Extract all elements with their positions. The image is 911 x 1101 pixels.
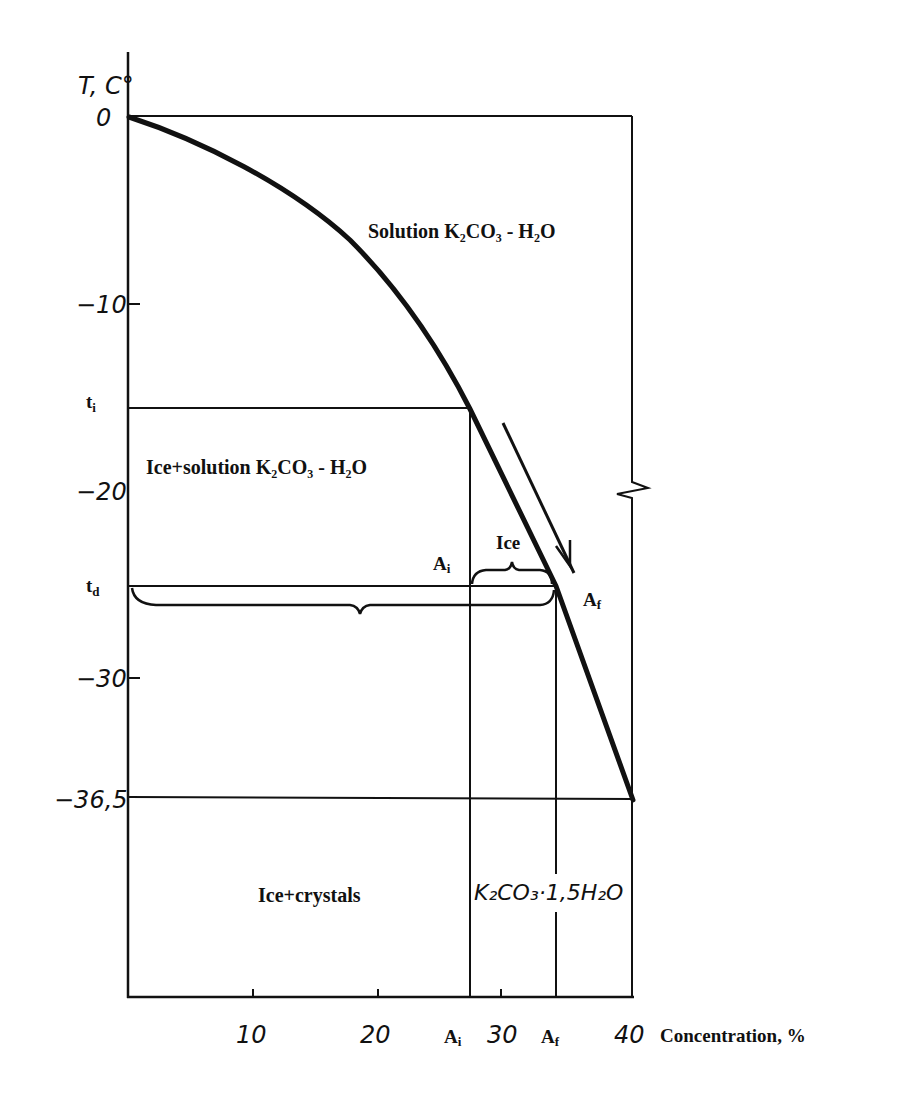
af-axis-label: Af — [541, 1026, 560, 1049]
brace-ice — [472, 562, 552, 584]
x-axis-label: Concentration, % — [660, 1025, 806, 1046]
ti-label: ti — [86, 391, 96, 415]
y-tick-label-m20: −20 — [76, 478, 127, 506]
y-tick-label-m30: −30 — [76, 665, 127, 693]
eutectic-line — [128, 797, 634, 799]
ai-axis-label: Ai — [444, 1026, 462, 1049]
region-ice-solution-label: Ice+solution K₂CO₃ - H₂O — [146, 456, 367, 478]
x-tick-label-40: 40 — [614, 1021, 645, 1049]
y-axis-label: T, C° — [78, 72, 134, 100]
af-point-label: Af — [583, 589, 602, 612]
y-tick-label-m365: −36,5 — [54, 786, 128, 814]
ai-point-label: Ai — [433, 553, 451, 576]
td-label: td — [86, 575, 100, 599]
x-tick-label-10: 10 — [236, 1021, 267, 1049]
region-ice-crystals-label: Ice+crystals — [258, 884, 361, 907]
region-ice-label: Ice — [496, 532, 520, 553]
phase-diagram: T, C° 0 −10 −20 −30 −36,5 ti td 10 20 30… — [0, 0, 911, 1101]
x-tick-label-30: 30 — [487, 1021, 518, 1049]
x-tick-label-20: 20 — [360, 1021, 391, 1049]
right-border-with-break — [617, 116, 648, 997]
y-tick-label-m10: −10 — [76, 291, 127, 319]
brace-ice-solution — [132, 588, 554, 614]
hydrate-formula-label: K₂CO₃·1,5H₂O — [474, 880, 623, 905]
y-tick-label-0: 0 — [96, 104, 111, 132]
region-solution-label: Solution K₂CO₃ - H₂O — [368, 220, 555, 242]
